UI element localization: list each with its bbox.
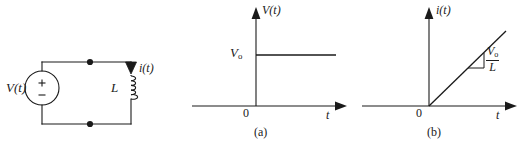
graph-a-level-label: Vo xyxy=(230,46,242,61)
graph-b-x-axis-label: t xyxy=(496,109,499,121)
graph-a-x-axis-arrow-icon xyxy=(335,102,347,111)
graph-b-slope-denominator: L xyxy=(486,61,499,73)
graph-a-level-subscript: o xyxy=(238,51,242,61)
graph-a-x-axis-label: t xyxy=(326,109,329,121)
graph-b-slope-fraction: Vo L xyxy=(486,45,499,73)
figure-rl-circuit-step-response: V(t) L i(t) V(t) t 0 Vo (a) xyxy=(0,0,523,148)
inductor-label: L xyxy=(111,81,118,94)
node-dot-bottom xyxy=(87,121,93,127)
graph-b-origin-label: 0 xyxy=(416,107,422,119)
graph-a-level-letter: V xyxy=(230,45,238,60)
graph-b-slope-numerator-subscript: o xyxy=(494,50,498,59)
node-dot-top xyxy=(87,59,93,65)
graph-b-panel: i(t) t 0 Vo L (b) xyxy=(350,0,523,148)
source-polarity-marks xyxy=(39,80,46,96)
voltage-source-symbol xyxy=(25,71,59,105)
graph-b-y-axis-label: i(t) xyxy=(436,4,451,16)
graph-b-slope-numerator: Vo xyxy=(486,45,499,61)
graph-a-caption: (a) xyxy=(254,125,267,140)
inductor-coil-symbol xyxy=(131,75,138,99)
graph-b-caption: (b) xyxy=(427,125,441,140)
current-arrow-icon xyxy=(126,62,137,74)
graph-b-x-axis-arrow-icon xyxy=(505,102,517,111)
graph-a-origin-label: 0 xyxy=(243,107,249,119)
graph-a-y-axis-label: V(t) xyxy=(262,4,281,16)
voltage-source-label: V(t) xyxy=(6,81,26,94)
graph-a-y-axis-arrow-icon xyxy=(252,7,261,19)
graph-b-y-axis-arrow-icon xyxy=(425,7,434,19)
graph-a-panel: V(t) t 0 Vo (a) xyxy=(180,0,350,148)
current-label: i(t) xyxy=(139,62,154,74)
circuit-diagram-panel: V(t) L i(t) xyxy=(0,0,180,148)
